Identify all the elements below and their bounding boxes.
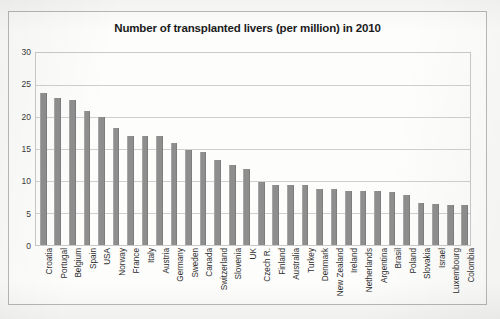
bar [389, 192, 396, 245]
bar-slot [428, 53, 443, 245]
bar-slot [341, 53, 356, 245]
bar [302, 185, 309, 245]
x-label-slot: Norway [108, 248, 123, 304]
x-label-slot: New Zealand [326, 248, 341, 304]
bar-slot [327, 53, 342, 245]
bar [229, 165, 236, 245]
x-label-slot: Finland [268, 248, 283, 304]
bar [214, 160, 221, 245]
x-label-slot: Austria [151, 248, 166, 304]
bar-slot [123, 53, 138, 245]
y-tick-label: 20 [22, 112, 31, 122]
x-label-slot: Portugal [50, 248, 65, 304]
x-label-slot: Turkey [297, 248, 312, 304]
bar [316, 189, 323, 245]
bar [113, 128, 120, 245]
bar [360, 191, 367, 245]
bar-slot [65, 53, 80, 245]
bar-slot [109, 53, 124, 245]
x-label-slot: Slovakia [413, 248, 428, 304]
bar-slot [152, 53, 167, 245]
bar-series [36, 53, 470, 245]
y-tick-label: 5 [26, 209, 31, 219]
x-label-slot: Ireland [340, 248, 355, 304]
x-label-slot: Sweden [180, 248, 195, 304]
x-label-slot: Argentina [369, 248, 384, 304]
x-label-slot: Croatia [35, 248, 50, 304]
bar [272, 185, 279, 245]
bar-slot [385, 53, 400, 245]
x-tick-label: Colombia [468, 248, 476, 283]
bar [418, 203, 425, 245]
x-label-slot: Spain [79, 248, 94, 304]
bar [171, 143, 178, 245]
bar-slot [312, 53, 327, 245]
bar [287, 185, 294, 245]
x-label-slot: Israel [427, 248, 442, 304]
y-tick-label: 10 [22, 176, 31, 186]
x-label-slot: UK [238, 248, 253, 304]
bar-slot [370, 53, 385, 245]
x-label-slot: Czech R. [253, 248, 268, 304]
x-label-slot: Australia [282, 248, 297, 304]
bar-slot [356, 53, 371, 245]
y-tick-label: 0 [26, 241, 31, 251]
bar-slot [94, 53, 109, 245]
chart-title: Number of transplanted livers (per milli… [9, 22, 486, 34]
bar-slot [196, 53, 211, 245]
bar-slot [225, 53, 240, 245]
bar [54, 98, 61, 245]
screenshot-page: Number of transplanted livers (per milli… [0, 0, 500, 319]
y-axis-tick-labels: 051015202530 [9, 52, 35, 246]
bar [127, 136, 134, 245]
bar-slot [80, 53, 95, 245]
bar-slot [51, 53, 66, 245]
bar-slot [443, 53, 458, 245]
bar [447, 205, 454, 245]
bar [142, 136, 149, 245]
bar [258, 182, 265, 245]
x-label-slot: Colombia [456, 248, 471, 304]
bar-slot [254, 53, 269, 245]
bar-slot [167, 53, 182, 245]
bar-slot [181, 53, 196, 245]
bar [185, 150, 192, 245]
bar-slot [283, 53, 298, 245]
x-label-slot: Netherlands [355, 248, 370, 304]
bar [345, 191, 352, 245]
bar-slot [210, 53, 225, 245]
x-label-slot: USA [93, 248, 108, 304]
x-label-slot: Denmark [311, 248, 326, 304]
x-label-slot: Brasil [384, 248, 399, 304]
bar-slot [457, 53, 472, 245]
x-label-slot: France [122, 248, 137, 304]
x-label-slot: Germany [166, 248, 181, 304]
bar-slot [269, 53, 284, 245]
y-tick-label: 15 [22, 144, 31, 154]
bar-slot [36, 53, 51, 245]
y-tick-label: 25 [22, 79, 31, 89]
plot-area [35, 52, 471, 246]
bar [331, 189, 338, 245]
x-label-slot: Belgium [64, 248, 79, 304]
x-label-slot: Switzerland [209, 248, 224, 304]
bar [432, 204, 439, 245]
bar-slot [414, 53, 429, 245]
x-label-slot: Luxembourg [442, 248, 457, 304]
bar [84, 111, 91, 245]
bar [98, 117, 105, 245]
x-label-slot: Italy [137, 248, 152, 304]
x-axis-category-labels: CroatiaPortugalBelgiumSpainUSANorwayFran… [35, 248, 471, 304]
bar [156, 136, 163, 245]
y-tick-label: 30 [22, 47, 31, 57]
bar [403, 195, 410, 245]
x-label-slot: Slovenia [224, 248, 239, 304]
bar-slot [399, 53, 414, 245]
bar [40, 93, 47, 245]
bar-slot [239, 53, 254, 245]
x-label-slot: Poland [398, 248, 413, 304]
bar [69, 100, 76, 245]
bar-slot [298, 53, 313, 245]
chart-frame: Number of transplanted livers (per milli… [8, 11, 487, 305]
bar-slot [138, 53, 153, 245]
